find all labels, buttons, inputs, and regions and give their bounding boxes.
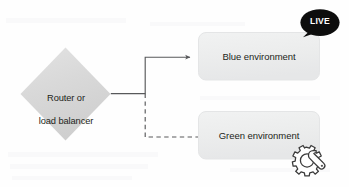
gear-wrench-icon-target[interactable] [288,146,327,184]
blue-green-deployment-diagram: Router or load balancer Blue environment… [0,0,349,187]
connector-router-to-blue [111,57,190,93]
blue-environment-node[interactable] [198,32,320,80]
connector-router-to-green [145,94,198,137]
router-node[interactable] [20,47,111,141]
live-status-badge[interactable] [300,9,340,38]
